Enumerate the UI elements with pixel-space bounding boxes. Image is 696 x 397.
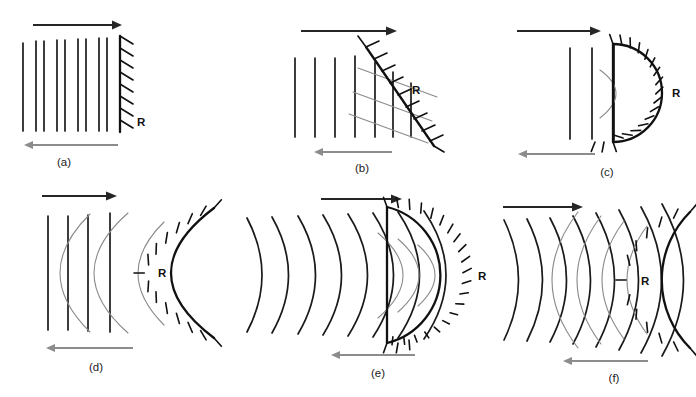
panel-d: R (d) <box>42 192 221 374</box>
panel-b-reflected-arrow-icon <box>314 148 392 156</box>
panel-e-caption: (e) <box>371 367 385 379</box>
panel-f: R (f) <box>503 203 696 385</box>
panel-a-reflector <box>120 36 133 132</box>
panel-c-incident-wavefronts <box>570 45 614 140</box>
panel-b-caption: (b) <box>355 162 369 174</box>
wave-reflection-figure: R (a) <box>0 0 696 397</box>
panel-b-reflector-label: R <box>412 84 421 96</box>
panel-d-reflected-arrow-icon <box>46 344 133 352</box>
panel-c-caption: (c) <box>600 166 614 178</box>
panel-e-incident-wavefronts <box>247 211 446 339</box>
panel-a-reflector-label: R <box>137 116 146 128</box>
figure-canvas: R (a) <box>0 0 696 397</box>
panel-e-reflected-arrow-icon <box>331 351 415 359</box>
panel-f-caption: (f) <box>609 372 620 384</box>
panel-d-reflector <box>134 200 221 346</box>
panel-b: R (b) <box>295 27 444 175</box>
panel-d-reflector-label: R <box>158 267 167 279</box>
panel-d-incident-wavefronts <box>48 213 110 332</box>
panel-a-incident-arrow-icon <box>33 21 122 30</box>
panel-e-reflector-label: R <box>478 270 487 282</box>
panel-e-incident-arrow-icon <box>321 195 402 204</box>
panel-c-incident-arrow-icon <box>517 27 601 36</box>
panel-c-reflected-arrow-icon <box>518 150 595 158</box>
panel-d-reflected-wavefronts <box>60 213 164 333</box>
panel-d-incident-arrow-icon <box>42 192 117 201</box>
panel-a-caption: (a) <box>57 156 71 168</box>
panel-e: R (e) <box>247 195 487 380</box>
panel-f-incident-arrow-icon <box>503 203 583 212</box>
panel-c: R (c) <box>517 27 681 179</box>
panel-b-incident-wavefronts <box>295 56 411 137</box>
panel-e-reflector <box>384 197 472 352</box>
panel-b-reflector <box>358 36 444 152</box>
panel-f-reflector-label: R <box>641 275 650 287</box>
panel-c-reflector-label: R <box>672 87 681 99</box>
panel-d-caption: (d) <box>89 361 103 373</box>
panel-b-incident-arrow-icon <box>301 27 397 36</box>
panel-a-incident-wavefronts <box>23 38 107 131</box>
panel-c-reflector <box>591 35 663 152</box>
panel-a: R (a) <box>23 21 146 169</box>
panel-f-reflected-arrow-icon <box>563 357 648 365</box>
panel-a-reflected-arrow-icon <box>24 141 118 149</box>
